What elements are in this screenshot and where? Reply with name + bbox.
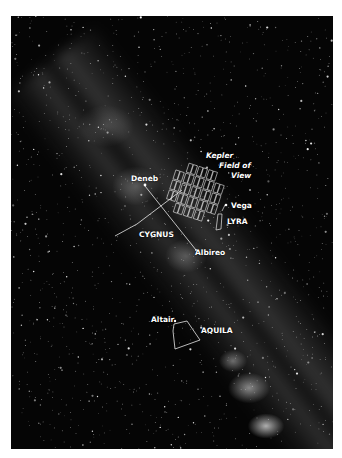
lyra-label: LYRA xyxy=(227,218,248,226)
albireo-label: Albireo xyxy=(195,249,225,257)
constellation-overlay xyxy=(0,0,342,458)
vega-label: Vega xyxy=(231,202,252,210)
aquila-lines xyxy=(173,321,200,349)
lyra-lines xyxy=(216,205,225,230)
cygnus-lines xyxy=(115,186,196,250)
cygnus-label: CYGNUS xyxy=(139,231,174,239)
kepler-label-line3: View xyxy=(231,172,251,180)
kepler-label-line2: Field of xyxy=(219,162,251,170)
aquila-label: AQUILA xyxy=(201,327,233,335)
kepler-label-line1: Kepler xyxy=(206,152,233,160)
deneb-star xyxy=(144,184,147,187)
altair-label: Altair xyxy=(151,316,174,324)
deneb-label: Deneb xyxy=(131,175,158,183)
vega-star xyxy=(225,204,228,207)
